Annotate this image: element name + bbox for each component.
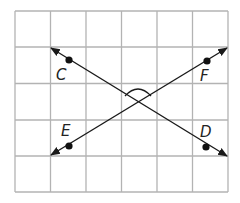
angle-arc bbox=[125, 89, 151, 96]
point-C: C bbox=[56, 56, 73, 84]
intersecting-lines-diagram: C F E D bbox=[0, 0, 240, 203]
svg-text:C: C bbox=[56, 66, 67, 84]
svg-text:E: E bbox=[61, 122, 71, 140]
svg-text:D: D bbox=[200, 123, 212, 141]
point-D: D bbox=[200, 123, 212, 151]
grid bbox=[15, 11, 228, 192]
point-F: F bbox=[200, 57, 211, 85]
point-E: E bbox=[61, 122, 73, 150]
svg-text:F: F bbox=[200, 67, 209, 85]
